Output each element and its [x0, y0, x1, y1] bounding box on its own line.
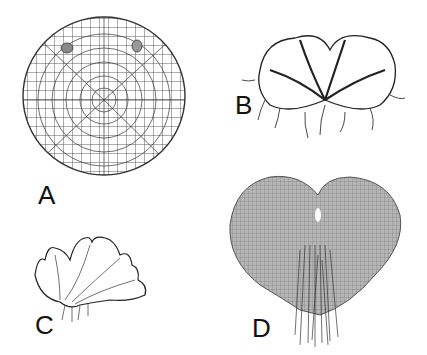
panel-a: A	[0, 0, 220, 220]
ruffled-thallus-drawing	[0, 220, 200, 355]
cellular-disc-drawing	[0, 0, 220, 220]
panel-label-d: D	[252, 315, 271, 341]
panel-label-c: C	[35, 312, 54, 338]
panel-c: C	[0, 220, 200, 355]
panel-b: B	[220, 20, 427, 170]
figure: A B	[0, 0, 427, 355]
panel-d: D	[200, 165, 427, 355]
panel-label-b: B	[235, 92, 252, 118]
panel-label-a: A	[38, 182, 55, 208]
heart-thallus-drawing	[200, 165, 427, 355]
